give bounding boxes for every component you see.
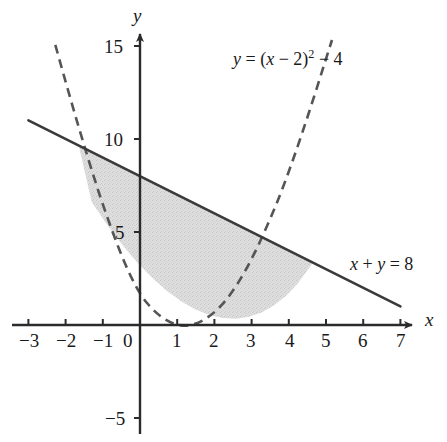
x-tick-label--3: −3	[19, 331, 39, 350]
x-tick-label-6: 6	[358, 331, 368, 350]
line-label-eq: = 8	[385, 254, 413, 274]
graph-figure: −3 −2 −1 0 1 2 3 4 5 6 7 15 10 5 −5 y x …	[0, 0, 447, 442]
y-tick-label--5: −5	[105, 409, 125, 428]
y-axis-label: y	[133, 6, 141, 25]
line-label-x: x	[350, 254, 358, 274]
x-tick-label-5: 5	[321, 331, 331, 350]
parabola-label-mid: − 2)	[274, 49, 308, 69]
line-equation-label: x + y = 8	[350, 255, 413, 273]
x-tick-label-4: 4	[285, 331, 295, 350]
x-axis-label: x	[425, 310, 433, 329]
x-tick-label-2: 2	[209, 331, 219, 350]
x-tick-label--1: −1	[93, 331, 113, 350]
parabola-label-x: x	[266, 49, 274, 69]
parabola-equation-label: y = (x − 2)2 − 4	[233, 48, 343, 68]
y-tick-label-15: 15	[104, 37, 123, 56]
x-tick-label--2: −2	[56, 331, 76, 350]
parabola-label-y: y	[233, 49, 241, 69]
x-tick-label-0: 0	[123, 331, 133, 350]
line-label-y: y	[377, 254, 385, 274]
x-tick-label-7: 7	[396, 331, 406, 350]
x-tick-label-3: 3	[246, 331, 256, 350]
parabola-label-tail: − 4	[314, 49, 342, 69]
y-tick-label-10: 10	[104, 130, 123, 149]
y-tick-label-5: 5	[115, 223, 125, 242]
line-label-plus: +	[358, 254, 377, 274]
parabola-label-eq: = (	[241, 49, 266, 69]
x-tick-label-1: 1	[172, 331, 182, 350]
plot-canvas	[0, 0, 447, 442]
